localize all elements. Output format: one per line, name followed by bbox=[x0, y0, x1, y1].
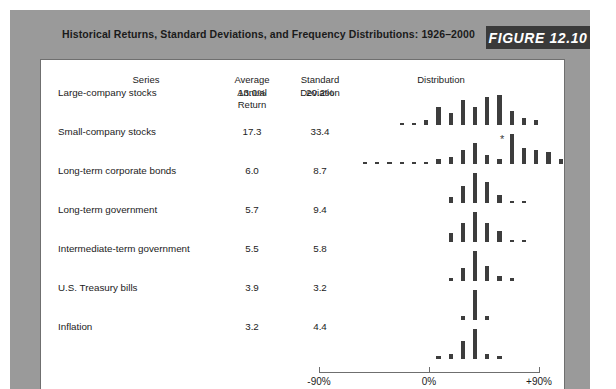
histogram-bar bbox=[449, 278, 453, 281]
axis-tick-max bbox=[539, 367, 540, 373]
row-value-average-annual-return: 13.0% bbox=[219, 87, 285, 98]
row-value-average-annual-return: 5.7 bbox=[219, 204, 285, 215]
histogram-bar bbox=[497, 195, 501, 203]
histogram-bar bbox=[497, 276, 501, 281]
axis-tick-zero bbox=[429, 367, 430, 373]
row-distribution-histogram bbox=[311, 325, 563, 359]
row-label-series: Long-term government bbox=[58, 204, 228, 215]
histogram-bar bbox=[412, 162, 416, 164]
histogram-bar bbox=[436, 356, 440, 359]
histogram-bar bbox=[461, 223, 465, 242]
histogram-bar bbox=[473, 173, 477, 203]
histogram-bar bbox=[510, 278, 514, 281]
histogram-bar bbox=[375, 162, 379, 164]
column-header-distribution: Distribution bbox=[371, 74, 511, 87]
page-title: Historical Returns, Standard Deviations,… bbox=[62, 28, 475, 40]
histogram-bar bbox=[473, 329, 477, 359]
histogram-bar bbox=[522, 240, 526, 242]
histogram-bar bbox=[424, 120, 428, 125]
axis-label-zero: 0% bbox=[399, 376, 459, 387]
table-row: Large-company stocks13.0%20.2% bbox=[41, 87, 564, 125]
histogram-bar bbox=[436, 107, 440, 125]
histogram-bar bbox=[473, 212, 477, 242]
histogram-bar bbox=[461, 150, 465, 164]
histogram-bar bbox=[534, 150, 538, 164]
histogram-bar bbox=[412, 123, 416, 125]
histogram-bar bbox=[436, 159, 440, 164]
histogram-bar bbox=[461, 100, 465, 125]
row-distribution-histogram bbox=[311, 247, 563, 281]
histogram-bar bbox=[461, 186, 465, 203]
row-label-series: Small-company stocks bbox=[58, 126, 228, 137]
histogram-bar bbox=[473, 251, 477, 281]
row-label-series: Large-company stocks bbox=[58, 87, 228, 98]
histogram-bar bbox=[510, 201, 514, 203]
row-distribution-histogram bbox=[311, 169, 563, 203]
table-row: Long-term government5.79.4 bbox=[41, 204, 564, 242]
table-row: U.S. Treasury bills3.93.2 bbox=[41, 282, 564, 320]
figure-table-panel: Series Average Annual Return Standard De… bbox=[40, 59, 565, 389]
histogram-bar bbox=[522, 148, 526, 164]
histogram-bar bbox=[546, 152, 550, 164]
row-label-series: Inflation bbox=[58, 321, 228, 332]
table-row: Inflation3.24.4 bbox=[41, 321, 564, 359]
histogram-bar bbox=[449, 233, 453, 242]
histogram-bar bbox=[424, 162, 428, 164]
distribution-axis: -90% 0% +90% bbox=[319, 366, 569, 389]
histogram-bar bbox=[400, 162, 404, 164]
histogram-bar bbox=[497, 95, 501, 125]
histogram-bar bbox=[510, 134, 514, 164]
histogram-bar bbox=[485, 182, 489, 203]
histogram-bar bbox=[485, 266, 489, 281]
histogram-bar bbox=[485, 155, 489, 164]
row-value-average-annual-return: 5.5 bbox=[219, 243, 285, 254]
histogram-bar bbox=[449, 113, 453, 125]
row-value-average-annual-return: 3.9 bbox=[219, 282, 285, 293]
histogram-bar bbox=[534, 120, 538, 125]
histogram-bar bbox=[485, 223, 489, 242]
row-value-average-annual-return: 3.2 bbox=[219, 321, 285, 332]
histogram-bar bbox=[400, 123, 404, 125]
histogram-bar bbox=[449, 354, 453, 359]
row-distribution-histogram: * bbox=[311, 130, 563, 164]
histogram-bar bbox=[497, 356, 501, 359]
histogram-bar bbox=[497, 231, 501, 242]
histogram-bar bbox=[485, 354, 489, 359]
histogram-bar bbox=[449, 157, 453, 164]
axis-label-min: -90% bbox=[289, 376, 349, 387]
column-header-series: Series bbox=[81, 74, 211, 87]
axis-tick-min bbox=[319, 367, 320, 373]
histogram-bar bbox=[461, 268, 465, 281]
row-value-average-annual-return: 17.3 bbox=[219, 126, 285, 137]
histogram-bar bbox=[461, 341, 465, 359]
histogram-bar bbox=[473, 143, 477, 164]
table-row: Long-term corporate bonds6.08.7 bbox=[41, 165, 564, 203]
row-label-series: U.S. Treasury bills bbox=[58, 282, 228, 293]
row-label-series: Long-term corporate bonds bbox=[58, 165, 228, 176]
row-distribution-histogram bbox=[311, 208, 563, 242]
histogram-bar bbox=[461, 316, 465, 320]
histogram-bar bbox=[387, 162, 391, 164]
table-row: Small-company stocks17.333.4* bbox=[41, 126, 564, 164]
histogram-bar bbox=[473, 290, 477, 320]
table-row: Intermediate-term government5.55.8 bbox=[41, 243, 564, 281]
row-distribution-histogram bbox=[311, 91, 563, 125]
histogram-bar bbox=[363, 162, 367, 164]
histogram-bar bbox=[522, 201, 526, 203]
histogram-bar bbox=[522, 118, 526, 125]
offscale-asterisk-annotation: * bbox=[500, 136, 504, 142]
histogram-bar bbox=[510, 240, 514, 242]
axis-label-max: +90% bbox=[509, 376, 569, 387]
row-label-series: Intermediate-term government bbox=[58, 243, 228, 254]
histogram-bar bbox=[559, 159, 563, 164]
histogram-bar bbox=[485, 316, 489, 320]
histogram-bar bbox=[473, 107, 477, 125]
histogram-bar bbox=[449, 197, 453, 203]
figure-number-badge: FIGURE 12.10 bbox=[486, 26, 590, 49]
row-value-average-annual-return: 6.0 bbox=[219, 165, 285, 176]
figure-caption-row: Historical Returns, Standard Deviations,… bbox=[10, 26, 590, 50]
histogram-bar bbox=[510, 111, 514, 125]
histogram-bar bbox=[497, 159, 501, 164]
row-distribution-histogram bbox=[311, 286, 563, 320]
histogram-bar bbox=[485, 97, 489, 125]
